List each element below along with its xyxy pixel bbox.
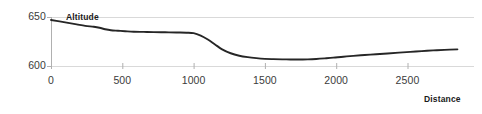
y-tick-label-600: 600 [8,59,46,71]
tick-marks-group [47,18,408,70]
altitude-series-line [51,20,457,60]
x-axis-title: Distance [424,94,461,104]
x-tick-label-0: 0 [21,74,81,86]
x-tick-label-500: 500 [92,74,152,86]
x-tick-label-1000: 1000 [164,74,224,86]
y-tick-label-650: 650 [8,10,46,22]
y-axis-title: Altitude [66,12,99,22]
altitude-distance-chart: 600650 05001000150020002500 Altitude Dis… [0,0,482,114]
x-tick-label-2000: 2000 [306,74,366,86]
x-tick-label-2500: 2500 [378,74,438,86]
x-tick-label-1500: 1500 [235,74,295,86]
